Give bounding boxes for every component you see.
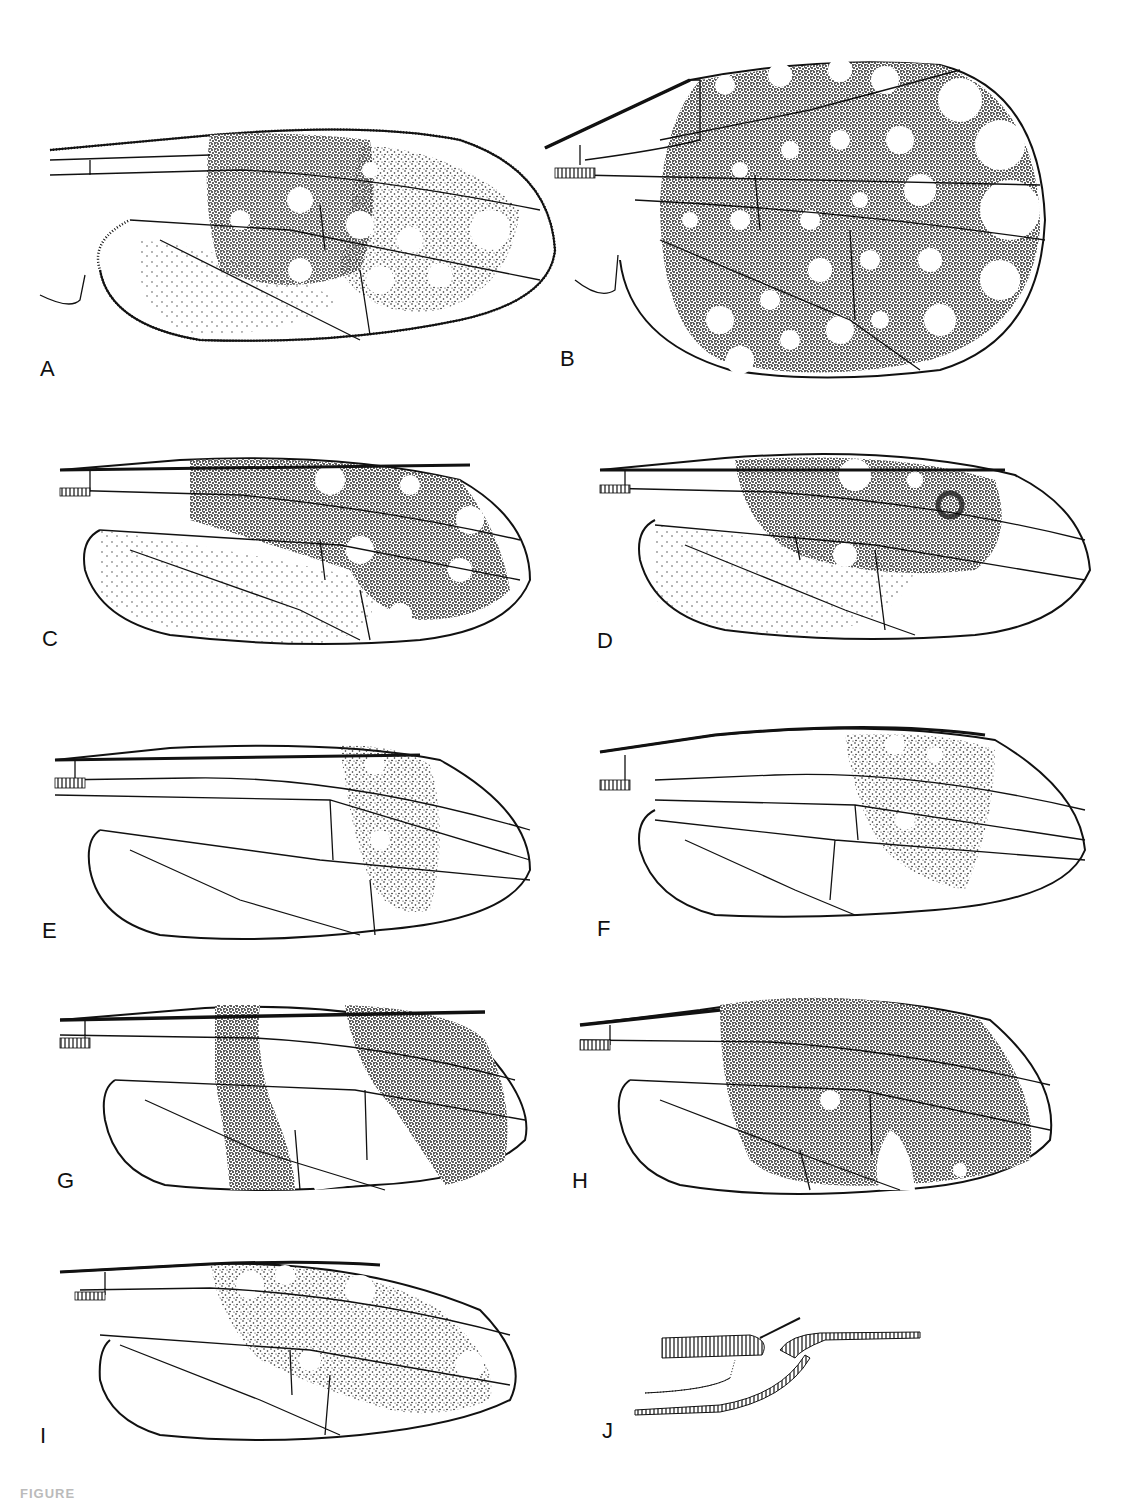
wing-drawing-b xyxy=(540,40,1100,390)
wing-panel-h: H xyxy=(570,980,1090,1200)
panel-label-i: I xyxy=(40,1425,46,1447)
wing-panel-a: A xyxy=(40,100,580,390)
panel-label-e: E xyxy=(42,920,57,942)
wing-drawing-j xyxy=(620,1300,960,1440)
wing-panel-i: I xyxy=(60,1250,540,1450)
figure-caption: FIGURE xyxy=(20,1486,75,1499)
wing-drawing-a xyxy=(40,100,580,390)
panel-label-h: H xyxy=(572,1170,588,1192)
wing-panel-c: C xyxy=(40,430,560,650)
wing-drawing-g xyxy=(55,990,575,1200)
wing-base-detail-j: J xyxy=(620,1300,960,1440)
wing-panel-b: B xyxy=(540,40,1100,390)
panel-label-a: A xyxy=(40,358,55,380)
panel-label-j: J xyxy=(602,1420,613,1442)
panel-label-f: F xyxy=(597,918,610,940)
wing-drawing-f xyxy=(595,700,1115,930)
panel-label-c: C xyxy=(42,628,58,650)
panel-label-b: B xyxy=(560,348,575,370)
panel-label-g: G xyxy=(57,1170,74,1192)
wing-drawing-e xyxy=(40,720,560,950)
wing-drawing-d xyxy=(595,430,1115,650)
wing-drawing-i xyxy=(60,1250,540,1450)
panel-label-d: D xyxy=(597,630,613,652)
wing-drawing-c xyxy=(40,430,560,650)
wing-panel-d: D xyxy=(595,430,1115,650)
wing-panel-g: G xyxy=(55,990,575,1200)
wing-panel-f: F xyxy=(595,700,1115,930)
wing-drawing-h xyxy=(570,980,1090,1200)
wing-panel-e: E xyxy=(40,720,560,950)
